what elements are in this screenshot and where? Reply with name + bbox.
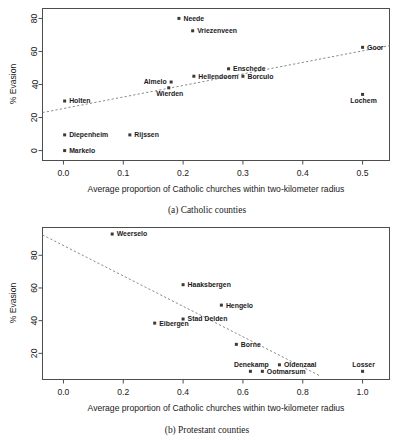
data-point: Enschede	[227, 65, 266, 72]
point-marker	[63, 100, 66, 103]
point-marker	[63, 149, 66, 152]
panel-a-data-points: NeedeVriezenveenGoorEnschedeHellendoornB…	[63, 15, 384, 154]
point-label: Goor	[367, 44, 384, 51]
point-label: Ootmarsum	[267, 368, 306, 375]
point-label: Hellendoorn	[198, 73, 238, 80]
x-tick-label: 0.2	[117, 387, 129, 397]
point-marker	[111, 233, 114, 236]
data-point: Rijssen	[128, 131, 159, 139]
point-label: Markelo	[69, 147, 95, 154]
x-tick-label: 0.4	[297, 168, 309, 178]
panel-b-y-axis-label: % Evasion	[8, 282, 18, 323]
point-marker	[241, 75, 244, 78]
point-marker	[249, 370, 252, 373]
point-label: Neede	[183, 15, 204, 22]
point-marker	[261, 370, 264, 373]
panel-b-plot-area: 0.00.20.40.60.81.020406080 WeerseloHaaks…	[30, 228, 390, 397]
panel-a-plot-area: 0.00.10.20.30.40.5020406080 NeedeVriezen…	[30, 9, 390, 178]
point-marker	[167, 86, 170, 89]
point-label: Hengelo	[226, 302, 253, 310]
x-tick-label: 0.1	[117, 168, 129, 178]
point-marker	[153, 322, 156, 325]
panel-a-caption: (a) Catholic counties	[168, 205, 246, 216]
point-label: Wierden	[156, 90, 183, 97]
x-tick-label: 0.2	[177, 168, 189, 178]
panel-b-caption: (b) Protestant counties	[165, 425, 250, 436]
x-tick-label: 1.0	[357, 387, 369, 397]
panel-catholic-counties: 0.00.10.20.30.40.5020406080 NeedeVriezen…	[0, 0, 415, 221]
panel-protestant-counties: 0.00.20.40.60.81.020406080 WeerseloHaaks…	[0, 221, 415, 442]
panel-b-frame	[43, 228, 390, 380]
point-label: Stad Delden	[188, 315, 228, 322]
point-marker	[220, 304, 223, 307]
point-label: Lochem	[350, 97, 376, 104]
data-point: Neede	[177, 15, 204, 22]
data-point: Losser	[352, 361, 375, 373]
y-tick-label: 20	[30, 348, 40, 358]
y-tick-label: 80	[30, 250, 40, 260]
y-tick-label: 60	[30, 46, 40, 56]
point-marker	[191, 29, 194, 32]
panel-a-y-axis-label: % Evasion	[8, 63, 18, 104]
y-tick-label: 0	[30, 148, 40, 153]
data-point: Almelo	[144, 78, 173, 85]
data-point: Borne	[235, 341, 261, 348]
panel-b-fit-line	[43, 235, 321, 376]
data-point: Hengelo	[220, 302, 253, 310]
point-label: Vriezenveen	[197, 27, 237, 34]
y-tick-label: 20	[30, 113, 40, 123]
panel-a-x-axis-label: Average proportion of Catholic churches …	[88, 184, 345, 194]
data-point: Holten	[63, 97, 90, 104]
point-marker	[361, 93, 364, 96]
point-label: Haaksbergen	[188, 281, 231, 289]
panel-b-x-axis-label: Average proportion of Catholic churches …	[88, 403, 345, 413]
point-marker	[177, 17, 180, 20]
panel-b-canvas: 0.00.20.40.60.81.020406080 WeerseloHaaks…	[0, 221, 415, 442]
panel-a-canvas: 0.00.10.20.30.40.5020406080 NeedeVriezen…	[0, 0, 415, 221]
x-tick-label: 0.8	[297, 387, 309, 397]
x-tick-label: 0.5	[357, 168, 369, 178]
data-point: Wierden	[156, 86, 183, 97]
data-point: Lochem	[350, 93, 376, 104]
point-label: Diepenheim	[69, 131, 108, 139]
data-point: Eibergen	[153, 320, 188, 328]
point-label: Denekamp	[234, 361, 269, 369]
y-tick-label: 60	[30, 283, 40, 293]
point-marker	[278, 363, 281, 366]
point-marker	[128, 133, 131, 136]
data-point: Vriezenveen	[191, 27, 237, 34]
point-label: Enschede	[233, 65, 266, 72]
y-tick-label: 80	[30, 13, 40, 23]
point-marker	[170, 81, 173, 84]
figure-scatter-pair: 0.00.10.20.30.40.5020406080 NeedeVriezen…	[0, 0, 415, 442]
y-tick-label: 40	[30, 80, 40, 90]
y-tick-label: 40	[30, 316, 40, 326]
point-marker	[182, 283, 185, 286]
panel-b-data-points: WeerseloHaaksbergenHengeloStad DeldenEib…	[111, 230, 375, 374]
x-tick-label: 0.6	[237, 387, 249, 397]
x-tick-label: 0.3	[237, 168, 249, 178]
point-marker	[192, 75, 195, 78]
data-point: Haaksbergen	[182, 281, 231, 289]
point-label: Almelo	[144, 78, 167, 85]
data-point: Weerselo	[111, 230, 148, 237]
point-marker	[235, 343, 238, 346]
data-point: Hellendoorn	[192, 73, 238, 80]
point-marker	[361, 46, 364, 49]
point-label: Borculo	[247, 73, 273, 80]
point-label: Borne	[241, 341, 261, 348]
data-point: Diepenheim	[63, 131, 108, 139]
point-label: Weerselo	[117, 230, 148, 237]
point-label: Rijssen	[134, 131, 159, 139]
point-marker	[227, 67, 230, 70]
data-point: Ootmarsum	[261, 368, 306, 375]
x-tick-label: 0.4	[177, 387, 189, 397]
data-point: Markelo	[63, 147, 95, 154]
data-point: Goor	[361, 44, 384, 51]
x-tick-label: 0.0	[57, 168, 69, 178]
point-label: Eibergen	[159, 320, 188, 328]
x-tick-label: 0.0	[57, 387, 69, 397]
point-label: Holten	[69, 97, 90, 104]
point-marker	[361, 370, 364, 373]
point-marker	[63, 133, 66, 136]
